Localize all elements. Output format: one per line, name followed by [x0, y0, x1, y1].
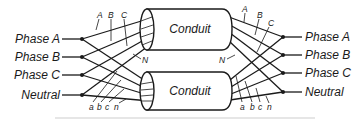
left-junction-c	[80, 73, 84, 77]
right-label-phase-c: Phase C	[305, 66, 351, 80]
left-bottom-wire-labels: a b c n	[89, 71, 126, 112]
right-wire-n-bottom	[230, 92, 283, 100]
faint-caption-strip	[55, 117, 315, 119]
left-junction-a	[80, 37, 84, 41]
svg-text:C: C	[268, 18, 275, 28]
svg-text:c: c	[258, 102, 263, 112]
right-wire-b-bottom	[231, 55, 283, 87]
svg-text:b: b	[97, 102, 102, 112]
wiring-diagram: Conduit Conduit Phase A Phase B Phase C …	[0, 0, 364, 122]
right-wire-a-bottom	[230, 37, 283, 80]
left-label-neutral: Neutral	[21, 88, 60, 102]
svg-text:A: A	[241, 4, 248, 14]
bottom-conduit: Conduit	[140, 72, 232, 110]
svg-text:b: b	[250, 102, 255, 112]
left-label-phase-a: Phase A	[15, 32, 60, 46]
right-junction-n	[281, 90, 285, 94]
right-label-phase-a: Phase A	[305, 30, 350, 44]
left-junction-n	[80, 93, 84, 97]
bottom-conduit-label: Conduit	[169, 84, 211, 98]
right-junction-c	[281, 71, 285, 75]
right-wire-a-top	[229, 17, 283, 37]
svg-text:a: a	[89, 102, 94, 112]
svg-text:N: N	[219, 55, 226, 65]
svg-text:c: c	[105, 102, 110, 112]
top-conduit: Conduit	[140, 9, 232, 50]
right-label-phase-b: Phase B	[305, 48, 350, 62]
left-label-phase-b: Phase B	[15, 50, 60, 64]
svg-text:B: B	[257, 10, 263, 20]
svg-text:n: n	[267, 102, 272, 112]
svg-text:n: n	[114, 102, 119, 112]
left-label-phase-c: Phase C	[14, 68, 60, 82]
svg-text:C: C	[121, 10, 128, 20]
left-junction-b	[80, 55, 84, 59]
right-junction-a	[281, 35, 285, 39]
right-junction-b	[281, 53, 285, 57]
top-conduit-label: Conduit	[169, 22, 211, 36]
right-label-neutral: Neutral	[305, 85, 344, 99]
svg-text:a: a	[240, 102, 245, 112]
svg-text:A: A	[96, 10, 103, 20]
svg-text:N: N	[142, 55, 149, 65]
svg-text:B: B	[108, 10, 114, 20]
left-wire-a-top	[82, 19, 148, 39]
